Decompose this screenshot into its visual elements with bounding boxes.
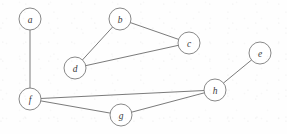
graph-node-label-e: e [258, 49, 262, 59]
graph-edge-c-d [86, 45, 179, 65]
graph-edge-b-d [82, 27, 112, 60]
graph-figure: abcdefgh [0, 0, 287, 134]
graph-node-label-a: a [28, 15, 33, 25]
graph-node-label-h: h [213, 86, 218, 96]
graph-edge-e-h [224, 60, 252, 83]
graph-node-d[interactable]: d [64, 57, 86, 79]
graph-node-f[interactable]: f [19, 88, 41, 110]
graph-node-label-g: g [119, 111, 124, 121]
graph-node-c[interactable]: c [178, 32, 200, 54]
graph-edge-b-c [130, 23, 178, 40]
graph-edge-f-h [41, 91, 204, 99]
graph-node-a[interactable]: a [19, 8, 41, 30]
graph-node-g[interactable]: g [110, 104, 132, 126]
graph-node-label-b: b [118, 15, 123, 25]
graph-edge-g-h [132, 93, 205, 112]
graph-node-h[interactable]: h [204, 79, 226, 101]
graph-node-label-d: d [73, 64, 78, 74]
graph-node-e[interactable]: e [249, 42, 271, 64]
graph-node-b[interactable]: b [109, 8, 131, 30]
graph-canvas: abcdefgh [0, 0, 287, 134]
graph-edge-f-g [41, 101, 110, 113]
